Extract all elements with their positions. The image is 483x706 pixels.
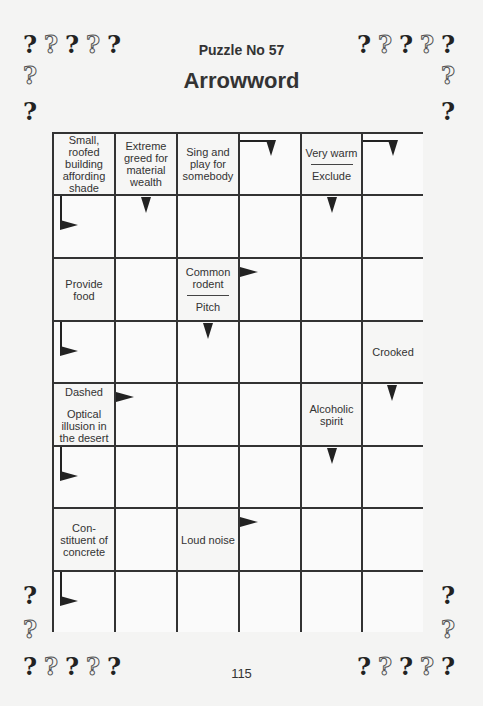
- grid-cell[interactable]: [240, 134, 302, 196]
- clue-cell: Con-stituent of concrete: [54, 509, 116, 572]
- question-mark-icon: ?: [21, 618, 39, 642]
- clue-cell: Very warmExclude: [302, 134, 363, 196]
- grid-cell[interactable]: [54, 196, 116, 259]
- clue-text: Exclude: [312, 170, 351, 182]
- grid-cell[interactable]: [363, 572, 423, 632]
- clue-text: Crooked: [372, 346, 414, 358]
- grid-cell[interactable]: [240, 384, 302, 447]
- question-mark-icon: ?: [418, 33, 436, 57]
- grid-cell[interactable]: [240, 572, 302, 632]
- puzzle-title: Arrowword: [0, 68, 483, 94]
- page-number: 115: [0, 666, 483, 681]
- grid-cell[interactable]: [178, 572, 240, 632]
- bent-arrow-right-icon: [60, 220, 78, 230]
- grid-cell[interactable]: [116, 572, 178, 632]
- arrow-down-icon: [203, 323, 213, 339]
- grid-cell[interactable]: [54, 447, 116, 509]
- grid-cell[interactable]: [240, 509, 302, 572]
- question-mark-icon: ?: [397, 33, 415, 57]
- clue-text: Provide food: [56, 278, 112, 302]
- grid-cell[interactable]: [116, 384, 178, 447]
- clue-cell: DashedOptical illusion in the desert: [54, 384, 116, 447]
- grid-cell[interactable]: [363, 509, 423, 572]
- clue-text: Con-stituent of concrete: [56, 522, 112, 558]
- question-mark-icon: ?: [105, 33, 123, 57]
- question-mark-icon: ?: [21, 100, 39, 124]
- question-mark-icon: ?: [84, 33, 102, 57]
- bent-arrow-down-icon: [266, 140, 276, 156]
- question-mark-icon: ?: [42, 33, 60, 57]
- clue-text: Common rodent: [180, 266, 236, 290]
- arrow-down-icon: [387, 385, 397, 401]
- clue-text: Extreme greed for material wealth: [118, 140, 174, 188]
- grid-cell[interactable]: [240, 259, 302, 322]
- grid-cell[interactable]: [302, 259, 363, 322]
- question-mark-icon: ?: [63, 33, 81, 57]
- clue-text: Loud noise: [181, 534, 235, 546]
- clue-cell: Alcoholic spirit: [302, 384, 363, 447]
- grid-cell[interactable]: [363, 259, 423, 322]
- clue-cell: Extreme greed for material wealth: [116, 134, 178, 196]
- grid-cell[interactable]: [54, 322, 116, 384]
- bent-arrow-right-icon: [60, 596, 78, 606]
- clue-cell: Small, roofed building affording shade: [54, 134, 116, 196]
- clue-cell: Loud noise: [178, 509, 240, 572]
- clue-text: Dashed: [65, 386, 103, 398]
- grid-cell[interactable]: [302, 196, 363, 259]
- question-mark-icon: ?: [439, 64, 457, 88]
- grid-cell[interactable]: [302, 572, 363, 632]
- clue-divider: [187, 295, 229, 296]
- question-mark-icon: ?: [355, 33, 373, 57]
- clue-text: Pitch: [196, 301, 220, 313]
- clue-text: Optical illusion in the desert: [56, 408, 112, 444]
- grid-cell[interactable]: [116, 509, 178, 572]
- grid-cell[interactable]: [178, 447, 240, 509]
- grid-cell[interactable]: [116, 322, 178, 384]
- clue-text: Small, roofed building affording shade: [56, 134, 112, 194]
- arrow-down-icon: [327, 448, 337, 464]
- bent-arrow-down-icon: [388, 140, 398, 156]
- grid-cell[interactable]: [363, 196, 423, 259]
- clue-text: Sing and play for somebody: [180, 146, 236, 182]
- arrow-right-icon: [240, 517, 258, 527]
- arrow-down-icon: [327, 197, 337, 213]
- grid-cell[interactable]: [302, 509, 363, 572]
- grid-cell[interactable]: [302, 447, 363, 509]
- grid-cell[interactable]: [116, 196, 178, 259]
- clue-text: Alcoholic spirit: [304, 403, 359, 427]
- clue-cell: Crooked: [363, 322, 423, 384]
- arrow-right-icon: [116, 392, 134, 402]
- grid-cell[interactable]: [54, 572, 116, 632]
- question-mark-icon: ?: [376, 33, 394, 57]
- question-mark-icon: ?: [21, 33, 39, 57]
- clue-cell: Sing and play for somebody: [178, 134, 240, 196]
- question-mark-icon: ?: [21, 64, 39, 88]
- question-mark-icon: ?: [439, 584, 457, 608]
- arrowword-grid: Small, roofed building affording shadeEx…: [52, 132, 423, 632]
- arrow-down-icon: [141, 197, 151, 213]
- question-mark-icon: ?: [439, 618, 457, 642]
- grid-cell[interactable]: [116, 259, 178, 322]
- clue-cell: Common rodentPitch: [178, 259, 240, 322]
- grid-cell[interactable]: [302, 322, 363, 384]
- clue-divider: [311, 164, 353, 165]
- grid-cell[interactable]: [178, 196, 240, 259]
- question-mark-icon: ?: [21, 584, 39, 608]
- bent-arrow-right-icon: [60, 471, 78, 481]
- grid-cell[interactable]: [178, 322, 240, 384]
- arrow-right-icon: [240, 267, 258, 277]
- grid-cell[interactable]: [178, 384, 240, 447]
- grid-cell[interactable]: [240, 322, 302, 384]
- grid-cell[interactable]: [116, 447, 178, 509]
- grid-cell[interactable]: [363, 447, 423, 509]
- grid-cell[interactable]: [240, 447, 302, 509]
- question-mark-icon: ?: [439, 33, 457, 57]
- grid-cell[interactable]: [363, 384, 423, 447]
- grid-cell[interactable]: [363, 134, 423, 196]
- question-mark-icon: ?: [439, 100, 457, 124]
- clue-cell: Provide food: [54, 259, 116, 322]
- bent-arrow-right-icon: [60, 346, 78, 356]
- grid-cell[interactable]: [240, 196, 302, 259]
- clue-text: Very warm: [306, 147, 358, 159]
